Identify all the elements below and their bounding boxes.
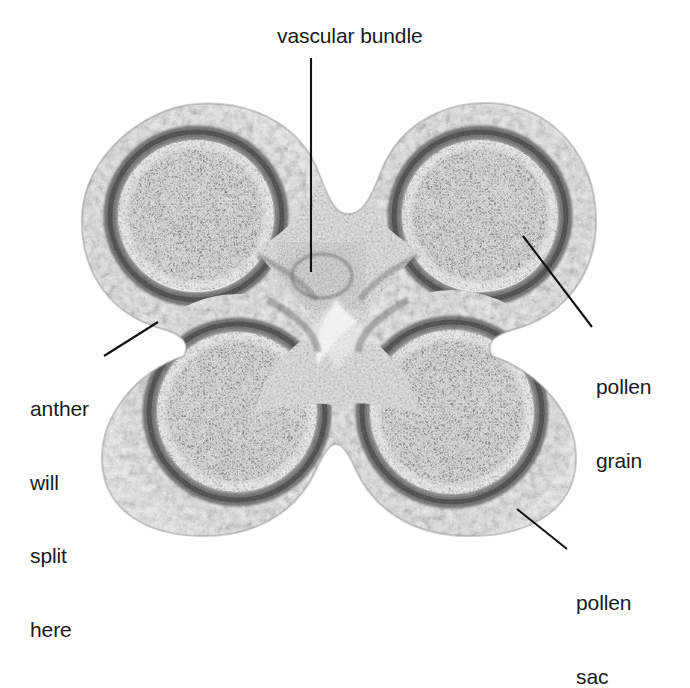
label-anther-line-4: here (30, 618, 89, 643)
label-pollen-grain: pollen grain (596, 326, 651, 522)
label-pollen-sac-line-1: pollen (576, 591, 631, 616)
label-anther-line-2: will (30, 471, 89, 496)
label-anther-will-split-here: anther will split here (30, 348, 89, 688)
label-pollen-grain-line-2: grain (596, 449, 651, 474)
label-pollen-sac: pollen sac (576, 542, 631, 688)
label-pollen-grain-line-1: pollen (596, 375, 651, 400)
label-pollen-sac-line-2: sac (576, 665, 631, 688)
label-vascular-bundle: vascular bundle (277, 24, 423, 49)
label-anther-line-3: split (30, 544, 89, 569)
label-anther-line-1: anther (30, 397, 89, 422)
specimen-body (60, 90, 630, 550)
